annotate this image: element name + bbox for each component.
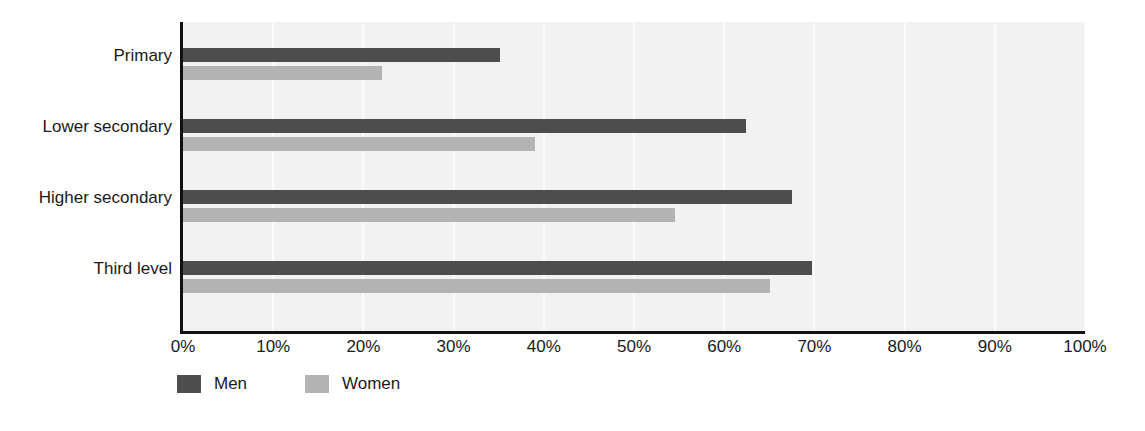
x-axis-tick-labels: 0%10%20%30%40%50%60%70%80%90%100%: [0, 337, 1145, 361]
category-label-higher-secondary: Higher secondary: [2, 189, 172, 206]
legend-swatch-women: [305, 375, 329, 393]
legend-item-women[interactable]: Women: [305, 375, 400, 393]
x-axis-line: [180, 331, 1085, 334]
x-tick-40pct: 40%: [527, 337, 561, 357]
x-tick-20pct: 20%: [346, 337, 380, 357]
bar-women-primary: [183, 66, 382, 80]
bar-women-higher-secondary: [183, 208, 675, 222]
x-tick-70pct: 70%: [797, 337, 831, 357]
bar-men-primary: [183, 48, 500, 62]
x-tick-90pct: 90%: [978, 337, 1012, 357]
x-tick-50pct: 50%: [617, 337, 651, 357]
x-tick-100pct: 100%: [1063, 337, 1106, 357]
gridline: [1084, 22, 1086, 333]
legend-swatch-men: [177, 375, 201, 393]
category-axis-labels: PrimaryLower secondaryHigher secondaryTh…: [0, 0, 172, 431]
x-tick-60pct: 60%: [707, 337, 741, 357]
gridline: [904, 22, 906, 333]
y-axis-line: [180, 22, 183, 333]
x-tick-10pct: 10%: [256, 337, 290, 357]
legend-label-men: Men: [214, 375, 247, 393]
bar-men-lower-secondary: [183, 119, 746, 133]
category-label-lower-secondary: Lower secondary: [2, 118, 172, 135]
plot-area: [183, 22, 1085, 333]
x-tick-80pct: 80%: [888, 337, 922, 357]
category-label-third-level: Third level: [2, 260, 172, 277]
legend-item-men[interactable]: Men: [177, 375, 247, 393]
x-tick-30pct: 30%: [437, 337, 471, 357]
legend-label-women: Women: [342, 375, 400, 393]
category-label-primary: Primary: [2, 47, 172, 64]
bar-women-lower-secondary: [183, 137, 535, 151]
bar-men-third-level: [183, 261, 812, 275]
horizontal-bar-chart: PrimaryLower secondaryHigher secondaryTh…: [0, 0, 1145, 431]
gridline: [994, 22, 996, 333]
bar-women-third-level: [183, 279, 770, 293]
x-tick-0pct: 0%: [171, 337, 196, 357]
gridline: [813, 22, 815, 333]
bar-men-higher-secondary: [183, 190, 792, 204]
